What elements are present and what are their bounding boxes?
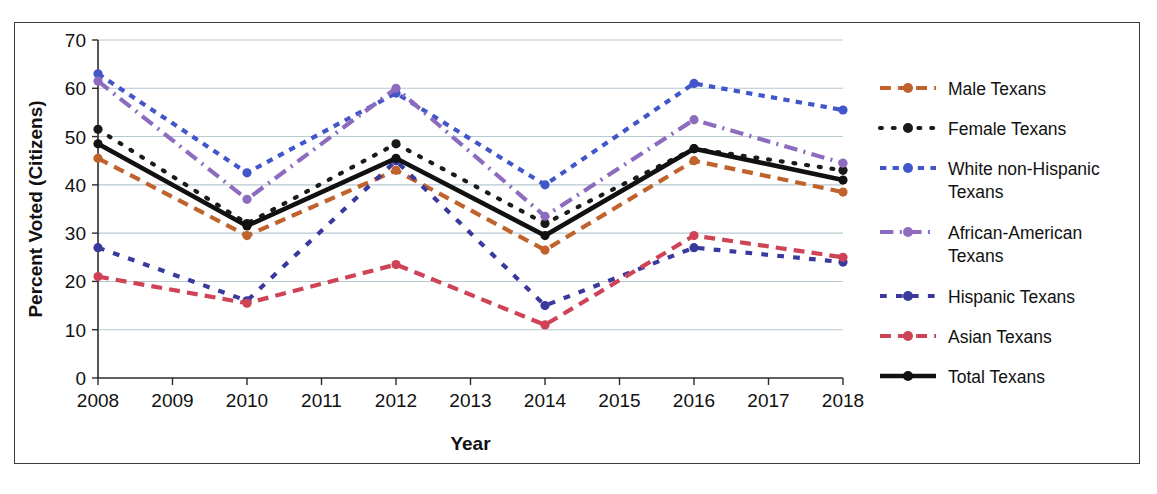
y-tick-label: 30 xyxy=(65,223,86,244)
x-tick-label: 2016 xyxy=(673,390,715,411)
legend-marker xyxy=(903,291,913,301)
legend-label-line2: Texans xyxy=(948,182,1004,202)
legend-label: Female Texans xyxy=(948,119,1067,139)
y-tick-label: 50 xyxy=(65,127,86,148)
y-tick-label: 20 xyxy=(65,271,86,292)
data-point xyxy=(242,195,251,204)
legend-label: Total Texans xyxy=(948,367,1045,387)
legend-item[interactable]: Hispanic Texans xyxy=(880,287,1075,307)
data-point xyxy=(689,115,698,124)
series-line xyxy=(98,144,843,236)
series-lines xyxy=(93,69,847,329)
data-point xyxy=(391,154,400,163)
series-line xyxy=(98,236,843,325)
x-tick-label: 2012 xyxy=(375,390,417,411)
x-tick-label: 2015 xyxy=(598,390,640,411)
legend-marker xyxy=(903,163,913,173)
data-point xyxy=(242,231,251,240)
data-point xyxy=(391,139,400,148)
y-tick-label: 60 xyxy=(65,78,86,99)
data-point xyxy=(540,231,549,240)
legend-label: Asian Texans xyxy=(948,327,1052,347)
figure-container: 010203040506070 200820092010201120122013… xyxy=(0,0,1157,494)
data-point xyxy=(689,156,698,165)
x-tick-label: 2009 xyxy=(151,390,193,411)
data-point xyxy=(93,154,102,163)
data-point xyxy=(93,125,102,134)
legend-marker xyxy=(903,83,913,93)
x-tick-label: 2014 xyxy=(524,390,567,411)
data-point xyxy=(242,221,251,230)
data-point xyxy=(93,139,102,148)
x-tick-label: 2013 xyxy=(449,390,491,411)
data-point xyxy=(689,144,698,153)
x-tick-label: 2008 xyxy=(77,390,119,411)
x-tick-label: 2018 xyxy=(822,390,864,411)
legend-item[interactable]: Male Texans xyxy=(880,79,1046,99)
y-axis-ticks: 010203040506070 xyxy=(65,30,98,389)
data-point xyxy=(93,76,102,85)
y-tick-label: 0 xyxy=(75,368,86,389)
y-tick-label: 10 xyxy=(65,320,86,341)
data-point xyxy=(689,79,698,88)
y-tick-label: 70 xyxy=(65,30,86,51)
legend-label: Male Texans xyxy=(948,79,1046,99)
data-point xyxy=(838,159,847,168)
data-point xyxy=(540,320,549,329)
data-point xyxy=(838,188,847,197)
legend-label: White non-Hispanic xyxy=(948,159,1100,179)
legend-label: African-American xyxy=(948,223,1082,243)
line-chart: 010203040506070 200820092010201120122013… xyxy=(0,0,1157,494)
data-point xyxy=(242,168,251,177)
x-axis-title: Year xyxy=(450,433,491,454)
data-point xyxy=(838,253,847,262)
legend-item[interactable]: Asian Texans xyxy=(880,327,1052,347)
data-point xyxy=(93,272,102,281)
legend-marker xyxy=(903,123,913,133)
y-tick-label: 40 xyxy=(65,175,86,196)
legend-marker xyxy=(903,331,913,341)
x-tick-label: 2010 xyxy=(226,390,268,411)
legend-label-line2: Texans xyxy=(948,246,1004,266)
data-point xyxy=(391,260,400,269)
legend-item[interactable]: White non-HispanicTexans xyxy=(880,159,1100,203)
x-tick-label: 2017 xyxy=(747,390,789,411)
data-point xyxy=(540,180,549,189)
legend-item[interactable]: African-AmericanTexans xyxy=(880,223,1082,267)
x-tick-label: 2011 xyxy=(301,390,342,411)
y-axis-title: Percent Voted (Citizens) xyxy=(25,100,46,317)
series-line xyxy=(98,129,843,223)
chart-area: 010203040506070 200820092010201120122013… xyxy=(0,0,1157,494)
legend-item[interactable]: Total Texans xyxy=(880,367,1045,387)
legend-label: Hispanic Texans xyxy=(948,287,1075,307)
data-point xyxy=(540,245,549,254)
data-point xyxy=(540,212,549,221)
x-axis-ticks: 2008200920102011201220132014201520162017… xyxy=(77,378,864,411)
axes xyxy=(98,40,843,378)
data-point xyxy=(242,299,251,308)
data-point xyxy=(838,175,847,184)
data-point xyxy=(93,243,102,252)
legend-marker xyxy=(903,227,913,237)
legend: Male TexansFemale TexansWhite non-Hispan… xyxy=(880,79,1100,387)
legend-marker xyxy=(903,371,913,381)
legend-item[interactable]: Female Texans xyxy=(880,119,1067,139)
data-point xyxy=(838,105,847,114)
data-point xyxy=(689,243,698,252)
data-point xyxy=(689,231,698,240)
data-point xyxy=(391,84,400,93)
data-point xyxy=(391,166,400,175)
data-point xyxy=(540,301,549,310)
